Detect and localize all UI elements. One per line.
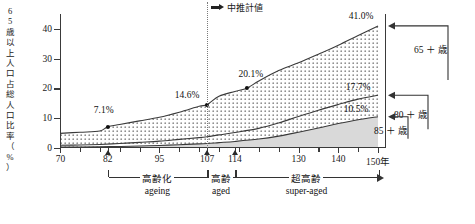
y-axis-title-char: 占: [2, 79, 18, 89]
x-tick-major: [60, 148, 61, 153]
x-tick: [179, 148, 180, 152]
x-tick: [259, 148, 260, 152]
y-tick: [54, 29, 60, 30]
y-axis-title-char: （: [2, 141, 18, 151]
y-tick: [54, 118, 60, 119]
y-tick-label: 10: [43, 113, 53, 123]
data-value-label: 7.1%: [94, 105, 114, 115]
x-tick-label: 150年: [366, 154, 390, 168]
y-axis-title-char: 人: [2, 58, 18, 68]
x-tick: [219, 148, 220, 152]
y-axis-title-char: %: [2, 152, 18, 162]
x-tick-major: [299, 148, 300, 153]
phase-bracket-label-ja: 高齢: [209, 171, 233, 185]
x-tick-label: 114: [228, 154, 242, 164]
y-axis-title-char: 6: [2, 6, 18, 16]
x-tick-label: 107: [200, 154, 214, 164]
data-value-label: 20.1%: [239, 69, 264, 79]
y-axis-title: 65歳以上人口占総人口比率（%）: [2, 6, 18, 166]
x-tick-label: 95: [155, 154, 165, 164]
data-value-label: 14.6%: [175, 90, 200, 100]
y-axis-title-char: 歳: [2, 27, 18, 37]
x-axis-line: [60, 147, 386, 148]
y-axis-title-char: 以: [2, 37, 18, 47]
x-tick: [100, 148, 101, 152]
data-value-label: 17.7%: [346, 82, 371, 92]
data-value-label: 41.0%: [349, 11, 374, 21]
plot-area: 010203040 708295107114130140150年 7.1%14.…: [60, 14, 386, 148]
y-axis-line: [60, 14, 61, 148]
chart-root: 65歳以上人口占総人口比率（%） 010203040 7082951071141…: [0, 0, 475, 224]
x-tick-major: [159, 148, 160, 153]
y-axis-title-char: 人: [2, 100, 18, 110]
y-tick: [54, 59, 60, 60]
left-arrow-icon: [388, 92, 395, 99]
phase-bracket-label-en: ageing: [145, 186, 170, 196]
phase-bracket-label-en: super-aged: [286, 186, 327, 196]
x-tick: [120, 148, 121, 152]
x-tick-label: 140: [331, 154, 345, 164]
axis-phase-marker: [232, 150, 238, 155]
x-tick-label: 130: [291, 154, 305, 164]
right-annotation-label: 80 ＋ 歳: [394, 107, 428, 121]
phase-bracket-label-en: aged: [212, 186, 230, 196]
x-tick-label: 82: [103, 154, 113, 164]
data-value-label: 10.5%: [344, 104, 369, 114]
x-tick-major: [378, 148, 379, 153]
x-tick: [239, 148, 240, 152]
projection-note: 中推計値: [211, 1, 263, 14]
y-axis-title-char: ）: [2, 162, 18, 172]
x-tick-label: 70: [56, 154, 66, 164]
y-tick-label: 40: [43, 24, 53, 34]
right-arrow-icon: [211, 4, 224, 11]
phase-bracket-label-ja: 高齢化: [140, 171, 174, 185]
y-tick: [54, 88, 60, 89]
y-tick-label: 30: [43, 54, 53, 64]
y-axis-title-char: 口: [2, 110, 18, 120]
y-axis-title-char: 総: [2, 89, 18, 99]
y-tick-label: 20: [43, 83, 53, 93]
y-axis-title-char: 上: [2, 48, 18, 58]
right-annotation-label: 85 ＋ 歳: [374, 123, 408, 137]
axis-phase-marker: [204, 150, 210, 155]
x-tick-major: [338, 148, 339, 153]
x-tick: [199, 148, 200, 152]
x-tick: [140, 148, 141, 152]
x-tick: [358, 148, 359, 152]
y-axis-title-char: 率: [2, 131, 18, 141]
x-tick: [279, 148, 280, 152]
right-annotation-label: 65 ＋ 歳: [414, 42, 448, 56]
y-tick-label: 0: [47, 143, 52, 153]
y-axis-title-char: 口: [2, 68, 18, 78]
x-tick: [80, 148, 81, 152]
phase-bracket-label-ja: 超高齢: [289, 171, 323, 185]
y-axis-title-char: 5: [2, 16, 18, 26]
left-arrow-icon: [388, 22, 395, 29]
projection-divider: [207, 2, 208, 148]
right-arrow-icon: [377, 174, 384, 182]
projection-note-label: 中推計値: [227, 1, 263, 14]
axis-phase-marker: [105, 150, 111, 155]
x-tick: [318, 148, 319, 152]
y-axis-title-char: 比: [2, 120, 18, 130]
